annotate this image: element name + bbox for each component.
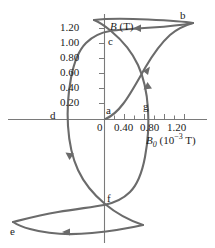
descending-branch-tail bbox=[13, 222, 143, 234]
ascending-branch-tail bbox=[94, 19, 193, 23]
x-axis-units-open: (10 bbox=[159, 134, 174, 146]
hysteresis-curves bbox=[13, 19, 193, 234]
arrow-descending-top bbox=[133, 25, 141, 32]
x-tick-label-0-40: 0.40 bbox=[114, 122, 133, 133]
point-label-a: a bbox=[106, 105, 111, 116]
x-axis-exponent: −3 bbox=[174, 132, 183, 141]
y-tick-label-0-80: 0.80 bbox=[60, 52, 79, 63]
y-tick-label-1-00: 1.00 bbox=[60, 37, 79, 48]
y-tick-label-0-60: 0.60 bbox=[60, 67, 79, 78]
x-axis-units-close: T) bbox=[183, 134, 196, 146]
y-axis-ticks bbox=[99, 29, 105, 104]
point-label-g: g bbox=[143, 101, 149, 112]
x-tick-label-0-80: 0.80 bbox=[140, 122, 159, 133]
y-tick-label-0-40: 0.40 bbox=[60, 82, 79, 93]
y-axis-symbol: B bbox=[110, 20, 117, 32]
point-label-c: c bbox=[108, 36, 113, 47]
x-axis-subscript: 0 bbox=[153, 140, 157, 149]
x-axis-ticks bbox=[115, 114, 185, 120]
x-tick-label-0: 0 bbox=[97, 122, 103, 133]
x-axis-title: B0 (10−3 T) bbox=[146, 133, 196, 149]
hysteresis-loop-figure: 1.20 1.00 0.80 0.60 0.40 0.20 0 0.40 0.8… bbox=[0, 0, 215, 248]
point-label-d: d bbox=[50, 110, 56, 121]
y-axis-units: (T) bbox=[119, 20, 133, 32]
x-axis-symbol: B bbox=[146, 134, 153, 146]
y-tick-label-1-20: 1.20 bbox=[60, 22, 79, 33]
point-label-b: b bbox=[180, 10, 186, 21]
y-axis-title: B (T) bbox=[110, 21, 134, 32]
y-tick-label-0-20: 0.20 bbox=[60, 97, 79, 108]
point-label-e: e bbox=[10, 226, 15, 237]
point-label-f: f bbox=[107, 193, 111, 204]
